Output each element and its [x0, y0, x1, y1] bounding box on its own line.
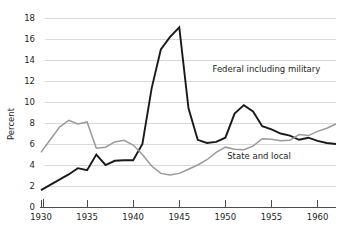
y-tick-label-6: 6: [30, 139, 35, 149]
y-tick-label-2: 2: [30, 181, 35, 191]
x-tick-label-1945: 1945: [168, 212, 190, 222]
y-tick-label-12: 12: [24, 76, 35, 86]
y-tick-label-0: 0: [30, 202, 35, 212]
y-tick-label-14: 14: [24, 55, 35, 65]
y-tick-label-18: 18: [24, 13, 35, 23]
y-axis-title: Percent: [6, 107, 16, 140]
series-label-state-and-local: State and local: [227, 151, 291, 161]
chart-container: 024681012141618 193019351940194519501955…: [0, 0, 345, 243]
series-label-federal-including-military: Federal including military: [212, 64, 320, 74]
x-tick-label-1940: 1940: [122, 212, 144, 222]
series-line-state-and-local: [41, 120, 336, 175]
data-series-group: [41, 27, 336, 190]
x-tick-label-1955: 1955: [261, 212, 283, 222]
series-line-federal-including-military: [41, 27, 336, 190]
x-axis: [40, 199, 336, 207]
x-tick-label-1950: 1950: [215, 212, 237, 222]
y-tick-label-4: 4: [30, 160, 35, 170]
x-tick-label-1960: 1960: [307, 212, 329, 222]
line-chart: 024681012141618 193019351940194519501955…: [0, 0, 345, 243]
x-tick-label-1935: 1935: [76, 212, 98, 222]
x-axis-tick-labels: 1930193519401945195019551960: [30, 212, 328, 222]
y-tick-label-10: 10: [24, 97, 35, 107]
y-tick-label-16: 16: [24, 34, 35, 44]
x-tick-label-1930: 1930: [30, 212, 52, 222]
y-tick-label-8: 8: [30, 118, 35, 128]
y-axis-tick-labels: 024681012141618: [24, 13, 35, 212]
gridlines-group: [45, 18, 336, 186]
series-annotations: Federal including militaryState and loca…: [212, 64, 320, 161]
